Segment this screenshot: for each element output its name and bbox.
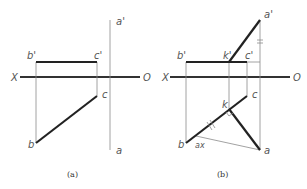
label-b: b (178, 139, 184, 150)
caption-a: (a) (67, 170, 78, 179)
label-a: a (264, 145, 270, 156)
label-c: c (252, 89, 258, 100)
label-k-prime: k' (223, 50, 232, 61)
label-b-prime: b' (177, 50, 186, 61)
label-c: c (102, 89, 108, 100)
label-b: b (28, 139, 34, 150)
label-c-prime: c' (94, 50, 102, 61)
panel-a: X O b' c' a' b c a (a) (10, 16, 151, 179)
label-c-prime: c' (245, 50, 253, 61)
label-b-prime: b' (27, 50, 36, 61)
label-a-prime: a' (116, 16, 125, 27)
axis-label-o: O (143, 72, 151, 83)
axis-label-x: X (161, 72, 170, 83)
label-a-prime: a' (264, 9, 273, 20)
label-ax: ax (195, 141, 205, 150)
panel-b: X O b' k' c' a' b k c a ax (b) (161, 9, 301, 179)
axis-label-o: O (293, 72, 301, 83)
line-bc (36, 96, 97, 143)
axis-label-x: X (10, 72, 19, 83)
projection-diagram: X O b' c' a' b c a (a) X O (0, 0, 307, 189)
label-a: a (116, 145, 122, 156)
caption-b: (b) (217, 170, 228, 179)
label-k: k (222, 99, 229, 110)
